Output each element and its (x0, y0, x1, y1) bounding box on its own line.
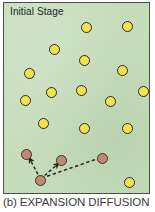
nonadopter-node (20, 95, 31, 106)
nonadopter-node (79, 123, 90, 134)
nonadopter-node (49, 44, 60, 55)
nonadopter-node (81, 22, 92, 33)
nonadopter-node (46, 87, 57, 98)
nonadopter-node (122, 21, 133, 32)
nonadopter-node (76, 85, 87, 96)
source-adopter-node (35, 175, 46, 186)
node-layer (4, 3, 149, 193)
adopter-node (97, 153, 108, 164)
nonadopter-node (24, 68, 35, 79)
nonadopter-node (138, 86, 149, 97)
nonadopter-node (79, 55, 90, 66)
nonadopter-node (105, 96, 116, 107)
figure-caption-text: (b) EXPANSION DIFFUSION (3, 196, 155, 209)
adopter-node (56, 155, 67, 166)
expansion-diffusion-figure: Initial Stage (b) EXPANSION DIFFUSION (0, 0, 155, 212)
adopter-node (21, 149, 32, 160)
nonadopter-node (38, 118, 49, 129)
nonadopter-node (124, 177, 135, 188)
figure-caption: (b) EXPANSION DIFFUSION (3, 196, 155, 212)
nonadopter-node (122, 123, 133, 134)
stage-label: Initial Stage (10, 6, 64, 18)
map-panel: Initial Stage (3, 2, 150, 194)
nonadopter-node (117, 65, 128, 76)
